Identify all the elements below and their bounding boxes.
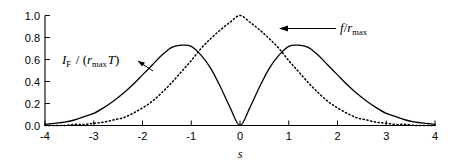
x-tick-label: 3	[383, 130, 389, 142]
x-tick-label: 2	[334, 130, 340, 142]
annotation-if: IF / (rmaxT)	[61, 52, 153, 71]
y-tick-label: 0.2	[25, 98, 40, 110]
x-tick-label: -4	[40, 130, 50, 142]
series-line-f	[45, 16, 435, 126]
x-tick-label: 4	[432, 130, 438, 142]
x-tick-label: -3	[89, 130, 99, 142]
y-tick-label: 0.0	[25, 120, 40, 132]
x-axis-title: s	[238, 147, 243, 161]
y-tick-label: 0.4	[25, 76, 40, 88]
series-line-if	[45, 45, 435, 125]
x-tick-label: -2	[138, 130, 148, 142]
chart-plot-area: 0.0 0.2 0.4 0.6 0.8 1.0 -4 -3 -2 -1 0 1	[0, 0, 456, 165]
annotation-f-arrowhead	[279, 26, 288, 32]
x-tick-label: -1	[186, 130, 196, 142]
y-tick-label: 1.0	[25, 10, 40, 22]
y-axis-ticks	[45, 16, 50, 126]
annotation-f: f/rmax	[279, 20, 368, 37]
y-tick-label: 0.6	[25, 54, 40, 66]
annotation-f-label: f/rmax	[340, 20, 368, 37]
chart-figure: 0.0 0.2 0.4 0.6 0.8 1.0 -4 -3 -2 -1 0 1	[0, 0, 456, 165]
x-tick-label: 0	[237, 130, 243, 142]
x-axis-ticks	[45, 121, 435, 126]
annotation-if-label: IF / (rmaxT)	[61, 52, 119, 69]
y-tick-label: 0.8	[25, 32, 40, 44]
y-axis-tick-labels: 0.0 0.2 0.4 0.6 0.8 1.0	[25, 10, 40, 132]
axis-group	[45, 16, 435, 126]
x-axis-tick-labels: -4 -3 -2 -1 0 1 2 3 4	[40, 130, 438, 142]
x-tick-label: 1	[286, 130, 292, 142]
annotation-if-arrowhead	[138, 61, 145, 67]
